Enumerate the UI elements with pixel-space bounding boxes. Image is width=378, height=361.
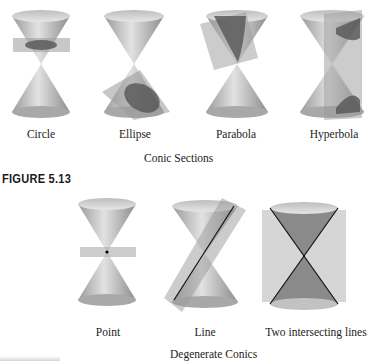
parabola-label: Parabola — [206, 128, 266, 140]
point-diagram — [74, 196, 140, 308]
line-diagram — [164, 196, 248, 314]
point-label: Point — [90, 326, 126, 338]
circle-label: Circle — [18, 128, 64, 140]
hyperbola-label: Hyperbola — [302, 128, 366, 140]
circle-diagram — [10, 8, 72, 120]
intersecting-lines-label: Two intersecting lines — [256, 326, 376, 338]
ellipse-diagram — [100, 8, 172, 120]
intersecting-lines-diagram — [262, 200, 346, 312]
line-label: Line — [190, 326, 220, 338]
parabola-diagram — [200, 8, 270, 120]
figure-label: FIGURE 5.13 — [2, 171, 71, 186]
cropped-figure-label — [0, 356, 60, 361]
hyperbola-diagram — [296, 8, 368, 120]
ellipse-label: Ellipse — [112, 128, 158, 140]
conic-sections-caption: Conic Sections — [144, 152, 213, 164]
degenerate-conics-caption: Degenerate Conics — [170, 348, 257, 360]
